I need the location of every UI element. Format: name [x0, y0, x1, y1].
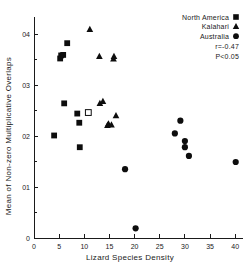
data-point-1-0 [86, 26, 93, 32]
data-point-0-0 [51, 133, 57, 139]
data-point-2-5 [182, 144, 188, 150]
y-tick-label-1: 01 [22, 184, 30, 191]
axis-tick-labels: 0510152025303540001020304 [22, 31, 239, 251]
x-tick-label-4: 20 [131, 243, 139, 250]
data-point-0-7 [76, 120, 82, 126]
legend-marker-circle [233, 33, 239, 39]
data-point-2-4 [182, 138, 188, 144]
data-point-2-0 [122, 166, 128, 172]
data-point-2-7 [233, 159, 239, 165]
data-point-0-6 [74, 111, 80, 117]
x-tick-label-1: 5 [57, 243, 61, 250]
series-north-america [51, 40, 91, 150]
y-axis-label: Mean of Non-zero Multiplicative Overlaps [4, 57, 13, 215]
x-tick-label-7: 35 [206, 243, 214, 250]
x-tick-label-3: 15 [106, 243, 114, 250]
legend-stat-1: P<0.05 [215, 53, 239, 60]
data-point-1-8 [111, 53, 118, 59]
x-tick-label-2: 10 [80, 243, 88, 250]
data-point-1-1 [96, 53, 103, 59]
data-points [51, 26, 239, 232]
y-tick-label-0: 0 [26, 235, 30, 242]
legend-marker-triangle [233, 23, 239, 29]
plot-canvas: 0510152025303540001020304 North AmericaK… [0, 0, 248, 265]
legend-label-north-america: North America [182, 14, 229, 21]
data-point-0-8 [77, 144, 83, 150]
y-tick-label-2: 02 [22, 133, 30, 140]
legend-stat-0: r=-0.47 [215, 43, 239, 50]
x-tick-label-8: 40 [231, 243, 239, 250]
x-tick-label-0: 0 [32, 243, 36, 250]
data-point-0-4 [61, 100, 67, 106]
data-point-2-6 [186, 153, 192, 159]
y-tick-label-4: 04 [22, 31, 30, 38]
data-point-1-9 [113, 112, 120, 118]
legend-label-kalahari: Kalahari [202, 23, 230, 30]
data-point-0-9 [85, 110, 91, 116]
axes [34, 17, 243, 238]
series-australia [122, 118, 239, 232]
x-tick-label-5: 25 [156, 243, 164, 250]
scatter-plot-figure: 0510152025303540001020304 North AmericaK… [0, 0, 248, 265]
x-axis-label: Lizard Species Density [86, 253, 174, 262]
axis-ticks [34, 34, 235, 238]
legend: North AmericaKalahariAustraliar=-0.47P<0… [182, 14, 239, 60]
data-point-0-3 [60, 52, 66, 58]
data-point-2-3 [177, 118, 183, 124]
y-tick-label-3: 03 [22, 82, 30, 89]
legend-marker-square [233, 14, 239, 20]
legend-label-australia: Australia [200, 33, 229, 40]
data-point-2-2 [172, 130, 178, 136]
data-point-1-3 [100, 98, 107, 104]
x-tick-label-6: 30 [181, 243, 189, 250]
data-point-2-1 [133, 225, 139, 231]
data-point-0-5 [64, 40, 70, 46]
